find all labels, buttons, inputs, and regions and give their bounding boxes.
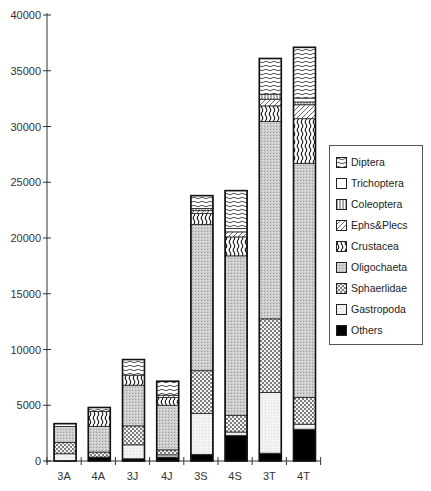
bar-segment-coleoptera xyxy=(294,102,316,105)
bar-segment-oligochaeta xyxy=(225,256,247,415)
bar-segment-sphaeriidae xyxy=(191,371,213,414)
bar-segment-sphaeriidae xyxy=(157,450,179,455)
bar-segment-gastropoda xyxy=(54,454,76,461)
bar-segment-diptera xyxy=(157,381,179,395)
bar-segment-gastropoda xyxy=(259,392,281,453)
bar-segment-sphaeriidae xyxy=(294,397,316,424)
bar-segment-gastropoda xyxy=(225,432,247,435)
bar-segment-gastropoda xyxy=(294,424,316,429)
legend-swatch-icon xyxy=(336,325,347,336)
legend-item-gastropoda: Gastropoda xyxy=(336,302,406,316)
legend-label: Crustacea xyxy=(351,240,399,252)
legend-label: Trichoptera xyxy=(351,177,404,189)
bar-segment-crustacea xyxy=(123,375,145,385)
bar-segment-oligochaeta xyxy=(54,426,76,442)
bar-segment-gastropoda xyxy=(191,414,213,455)
bar-segment-sphaeriidae xyxy=(54,443,76,454)
bar-segment-crustacea xyxy=(191,213,213,224)
bar-segment-trichoptera xyxy=(294,98,316,102)
bar-segment-sphaeriidae xyxy=(88,452,110,457)
legend-item-others: Others xyxy=(336,323,383,337)
x-category-label: 3J xyxy=(127,470,139,482)
x-category-label: 4J xyxy=(161,470,173,482)
legend-item-coleoptera: Coleoptera xyxy=(336,197,402,211)
bar-segment-sphaeriidae xyxy=(259,319,281,393)
legend-item-ephsplecs: Ephs&Plecs xyxy=(336,218,408,232)
x-category-label: 4T xyxy=(297,470,310,482)
bar-segment-oligochaeta xyxy=(294,163,316,397)
legend-label: Diptera xyxy=(351,156,385,168)
bar-segment-crustacea xyxy=(225,237,247,256)
legend-swatch-icon xyxy=(336,157,347,168)
legend-item-diptera: Diptera xyxy=(336,155,385,169)
bar-segment-ephsplecs xyxy=(225,232,247,237)
bar-segment-coleoptera xyxy=(259,94,281,99)
y-tick-label: 10000 xyxy=(10,344,41,356)
bar-segment-ephsplecs xyxy=(191,211,213,214)
bar-segment-others xyxy=(191,454,213,461)
legend-swatch-icon xyxy=(336,262,347,273)
y-tick-label: 0 xyxy=(35,455,41,467)
legend-label: Others xyxy=(351,324,383,336)
bar-segment-diptera xyxy=(294,47,316,98)
legend-swatch-icon xyxy=(336,178,347,189)
legend-item-crustacea: Crustacea xyxy=(336,239,399,253)
bar-segment-others xyxy=(294,429,316,461)
x-category-label: 3S xyxy=(194,470,207,482)
bar-segment-crustacea xyxy=(259,106,281,122)
bar-4T xyxy=(294,47,316,461)
x-category-label: 3T xyxy=(263,470,276,482)
bar-segment-oligochaeta xyxy=(191,225,213,371)
bar-segment-others xyxy=(259,453,281,461)
legend-item-oligochaeta: Oligochaeta xyxy=(336,260,407,274)
legend: DipteraTrichopteraColeopteraEphs&PlecsCr… xyxy=(329,145,423,345)
legend-swatch-icon xyxy=(336,220,347,231)
y-tick-label: 25000 xyxy=(10,176,41,188)
legend-label: Ephs&Plecs xyxy=(351,219,408,231)
bar-4S xyxy=(225,191,247,461)
legend-label: Sphaerlidae xyxy=(351,282,407,294)
legend-item-trichoptera: Trichoptera xyxy=(336,176,404,190)
bar-segment-diptera xyxy=(259,58,281,94)
bar-segment-ephsplecs xyxy=(259,99,281,106)
legend-swatch-icon xyxy=(336,304,347,315)
y-tick-label: 5000 xyxy=(17,399,41,411)
legend-label: Coleoptera xyxy=(351,198,402,210)
bar-segment-trichoptera xyxy=(225,229,247,232)
y-tick-label: 20000 xyxy=(10,232,41,244)
bar-segment-diptera xyxy=(191,196,213,209)
x-category-label: 4A xyxy=(92,470,106,482)
legend-label: Oligochaeta xyxy=(351,261,407,273)
bar-segment-oligochaeta xyxy=(157,405,179,450)
bar-segment-diptera xyxy=(123,360,145,376)
x-category-label: 3A xyxy=(57,470,71,482)
legend-label: Gastropoda xyxy=(351,303,406,315)
bar-3A xyxy=(54,424,76,461)
bar-4A xyxy=(88,407,110,461)
y-tick-label: 15000 xyxy=(10,288,41,300)
bar-segment-oligochaeta xyxy=(88,426,110,452)
legend-swatch-icon xyxy=(336,199,347,210)
y-tick-label: 30000 xyxy=(10,121,41,133)
bar-segment-gastropoda xyxy=(123,445,145,459)
bar-3T xyxy=(259,58,281,461)
bar-4J xyxy=(157,381,179,461)
bar-segment-oligochaeta xyxy=(259,121,281,318)
legend-swatch-icon xyxy=(336,283,347,294)
bar-3S xyxy=(191,196,213,461)
bar-segment-ephsplecs xyxy=(294,105,316,119)
legend-item-sphaerlidae: Sphaerlidae xyxy=(336,281,407,295)
y-tick-label: 40000 xyxy=(10,9,41,21)
bars xyxy=(54,47,315,461)
bar-segment-crustacea xyxy=(294,119,316,164)
bar-segment-diptera xyxy=(225,191,247,229)
bar-3J xyxy=(123,360,145,461)
bar-segment-crustacea xyxy=(88,411,110,426)
bar-segment-sphaeriidae xyxy=(123,426,145,445)
bar-segment-oligochaeta xyxy=(123,385,145,426)
bar-segment-crustacea xyxy=(157,397,179,405)
x-category-label: 4S xyxy=(228,470,241,482)
y-tick-label: 35000 xyxy=(10,65,41,77)
bar-segment-others xyxy=(225,435,247,461)
bar-segment-sphaeriidae xyxy=(225,415,247,432)
